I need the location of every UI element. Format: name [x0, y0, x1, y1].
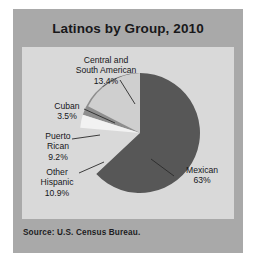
- pie-label-mexican: Mexican 63%: [174, 165, 230, 186]
- pie-label-cuban: Cuban 3.5%: [36, 101, 98, 122]
- pie-label-puerto-rican: Puerto Rican 9.2%: [30, 131, 86, 162]
- title-band: Latinos by Group, 2010: [13, 9, 243, 47]
- source-note: Source: U.S. Census Bureau.: [23, 228, 140, 237]
- pie-label-central-value: 13.4%: [58, 76, 154, 86]
- pie-label-puerto-value: 9.2%: [30, 152, 86, 162]
- chart-title: Latinos by Group, 2010: [52, 21, 203, 36]
- pie-label-other-name-line1: Other: [26, 167, 88, 177]
- pie-label-mexican-value: 63%: [174, 175, 230, 185]
- pie-label-cuban-value: 3.5%: [36, 111, 98, 121]
- pie-label-other-hispanic: Other Hispanic 10.9%: [26, 167, 88, 198]
- chart-figure: Latinos by Group, 2010: [13, 9, 243, 253]
- pie-label-central-south-american: Central and South American 13.4%: [58, 55, 154, 86]
- pie-label-cuban-name: Cuban: [36, 101, 98, 111]
- pie-label-central-name-line1: Central and: [58, 55, 154, 65]
- pie-label-other-name-line2: Hispanic: [26, 177, 88, 187]
- source-band: Source: U.S. Census Bureau.: [13, 219, 243, 253]
- pie-label-other-value: 10.9%: [26, 188, 88, 198]
- plot-panel: Central and South American 13.4% Cuban 3…: [22, 47, 234, 219]
- pie-label-central-name-line2: South American: [58, 65, 154, 75]
- pie-label-puerto-name-line2: Rican: [30, 141, 86, 151]
- pie-label-puerto-name-line1: Puerto: [30, 131, 86, 141]
- pie-label-mexican-name: Mexican: [174, 165, 230, 175]
